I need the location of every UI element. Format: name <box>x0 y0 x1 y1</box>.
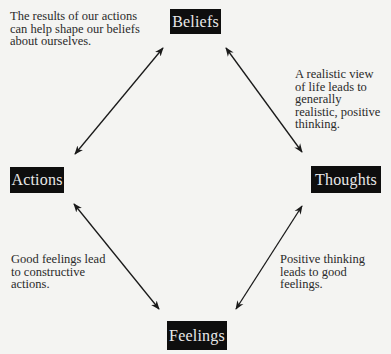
node-actions: Actions <box>10 167 64 193</box>
note-beliefs-thoughts: A realistic view of life leads to genera… <box>295 68 380 131</box>
cognitive-cycle-diagram: Beliefs Actions Thoughts Feelings The re… <box>0 0 391 354</box>
arrow-actions-beliefs <box>75 48 163 154</box>
node-thoughts: Thoughts <box>311 166 381 193</box>
note-feelings-actions: Good feelings lead to constructive actio… <box>11 253 105 291</box>
note-actions-beliefs: The results of our actions can help shap… <box>10 10 140 48</box>
node-beliefs-label: Beliefs <box>172 14 219 30</box>
node-beliefs: Beliefs <box>170 9 221 34</box>
note-thoughts-feelings: Positive thinking leads to good feelings… <box>280 253 365 291</box>
arrow-beliefs-thoughts <box>226 48 302 152</box>
node-actions-label: Actions <box>11 172 62 188</box>
node-feelings: Feelings <box>167 321 227 350</box>
node-thoughts-label: Thoughts <box>315 172 377 188</box>
node-feelings-label: Feelings <box>169 328 225 344</box>
